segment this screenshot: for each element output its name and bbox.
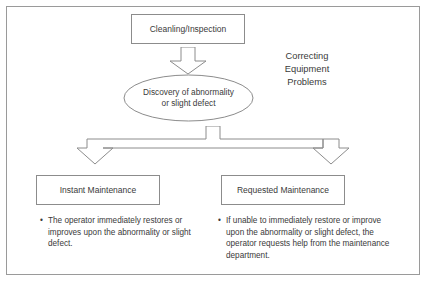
list-item-text: If unable to immediately restore or impr… [226,215,394,262]
split-down-arrow-icon [76,126,350,177]
diagram-heading: Correcting Equipment Problems [255,50,359,90]
process-box-cleaning-inspection-label: Cleanling/Inspection [150,24,227,34]
list-item: • The operator immediately restores or i… [40,215,192,250]
bullet-marker-icon: • [218,215,226,227]
bullet-list-instant-maintenance: • The operator immediately restores or i… [40,215,192,250]
list-item: • If unable to immediately restore or im… [218,215,394,262]
bullet-list-requested-maintenance: • If unable to immediately restore or im… [218,215,394,262]
diagram-heading-line3: Problems [255,76,359,89]
bullet-marker-icon: • [40,215,48,227]
process-box-instant-maintenance-label: Instant Maintenance [60,185,137,195]
decision-oval-line2: or slight defect [162,98,216,109]
process-box-instant-maintenance: Instant Maintenance [36,175,160,205]
process-box-cleaning-inspection: Cleanling/Inspection [131,14,245,44]
list-item-text: The operator immediately restores or imp… [48,215,192,250]
decision-oval-discovery: Discovery of abnormality or slight defec… [123,74,254,122]
decision-oval-label: Discovery of abnormality or slight defec… [123,74,254,122]
diagram-heading-line2: Equipment [255,63,359,76]
diagram-heading-line1: Correcting [255,50,359,63]
process-box-requested-maintenance-label: Requested Maintenance [237,185,329,195]
process-box-requested-maintenance: Requested Maintenance [221,175,345,205]
decision-oval-line1: Discovery of abnormality [143,87,234,98]
down-arrow-icon [168,47,208,75]
diagram-canvas: Cleanling/Inspection Discovery of abnorm… [0,0,427,282]
